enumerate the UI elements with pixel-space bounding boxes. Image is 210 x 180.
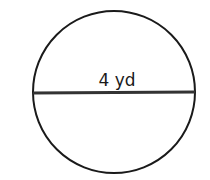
circle-diagram: 4 yd: [0, 0, 210, 180]
diameter-label: 4 yd: [98, 70, 135, 90]
diameter-line: [33, 92, 195, 93]
